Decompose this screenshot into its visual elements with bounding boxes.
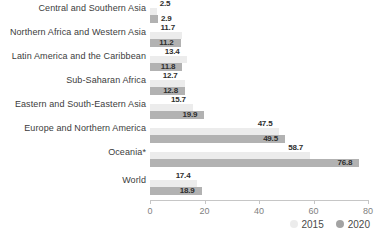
value-label-2015: 12.7 (163, 72, 178, 80)
chart-row: Oceania*58.776.8 (0, 144, 378, 168)
row-plot-area: 13.411.8 (150, 48, 368, 72)
chart-row: Central and Southern Asia2.52.9 (0, 0, 378, 24)
chart-row: World17.418.9 (0, 172, 378, 196)
value-label-2020: 2.9 (161, 15, 172, 23)
value-label-2020: 11.2 (159, 39, 173, 47)
legend-label: 2015 (302, 219, 324, 230)
x-tick-label: 40 (254, 206, 264, 216)
value-label-2015: 15.7 (171, 96, 186, 104)
row-plot-area: 2.52.9 (150, 0, 368, 24)
row-plot-area: 12.712.8 (150, 72, 368, 96)
category-label: Latin America and the Caribbean (0, 48, 146, 64)
bar-chart: Central and Southern Asia2.52.9Northern … (0, 0, 378, 234)
value-label-2020: 11.8 (161, 63, 175, 71)
value-label-2015: 17.4 (176, 172, 191, 180)
row-plot-area: 15.719.9 (150, 96, 368, 120)
chart-row: Europe and Northern America47.549.5 (0, 120, 378, 144)
x-tick-label: 20 (199, 206, 209, 216)
value-label-2020: 12.8 (163, 87, 178, 95)
category-label: Oceania* (0, 144, 146, 160)
value-label-2015: 11.7 (161, 24, 175, 32)
row-plot-area: 17.418.9 (150, 172, 368, 196)
value-label-2015: 47.5 (258, 120, 273, 128)
category-label: Europe and Northern America (0, 120, 146, 136)
category-label: Central and Southern Asia (0, 0, 146, 16)
value-label-2015: 13.4 (165, 48, 180, 56)
chart-rows: Central and Southern Asia2.52.9Northern … (0, 0, 378, 196)
x-tick (314, 200, 315, 204)
x-tick (368, 200, 369, 204)
value-label-2020: 18.9 (180, 187, 195, 195)
value-label-2020: 49.5 (263, 135, 278, 143)
x-tick-label: 60 (308, 206, 318, 216)
x-tick-label: 80 (363, 206, 373, 216)
category-label: World (0, 172, 146, 188)
value-label-2020: 76.8 (338, 159, 353, 167)
x-tick-label: 0 (147, 206, 152, 216)
bar-2015 (150, 152, 310, 159)
value-label-2015: 58.7 (288, 144, 303, 152)
row-plot-area: 58.776.8 (150, 144, 368, 168)
legend-item-2020: 2020 (336, 219, 370, 230)
category-label: Eastern and South-Eastern Asia (0, 96, 146, 112)
row-plot-area: 11.711.2 (150, 24, 368, 48)
legend-item-2015: 2015 (290, 219, 324, 230)
legend-label: 2020 (348, 219, 370, 230)
x-tick (259, 200, 260, 204)
chart-row: Sub-Saharan Africa12.712.8 (0, 72, 378, 96)
legend-marker-2020 (336, 220, 344, 228)
value-label-2015: 2.5 (160, 0, 171, 8)
category-label: Sub-Saharan Africa (0, 72, 146, 88)
x-tick (205, 200, 206, 204)
value-label-2020: 19.9 (182, 111, 197, 119)
bar-2015 (150, 8, 157, 15)
category-label: Northern Africa and Western Asia (0, 24, 146, 40)
chart-row: Eastern and South-Eastern Asia15.719.9 (0, 96, 378, 120)
bar-2020 (150, 159, 359, 167)
bar-2015 (150, 128, 279, 135)
chart-row: Northern Africa and Western Asia11.711.2 (0, 24, 378, 48)
legend: 20152020 (290, 217, 371, 231)
bar-2020 (150, 15, 158, 23)
chart-row: Latin America and the Caribbean13.411.8 (0, 48, 378, 72)
legend-marker-2015 (290, 220, 298, 228)
row-plot-area: 47.549.5 (150, 120, 368, 144)
x-tick (150, 200, 151, 204)
